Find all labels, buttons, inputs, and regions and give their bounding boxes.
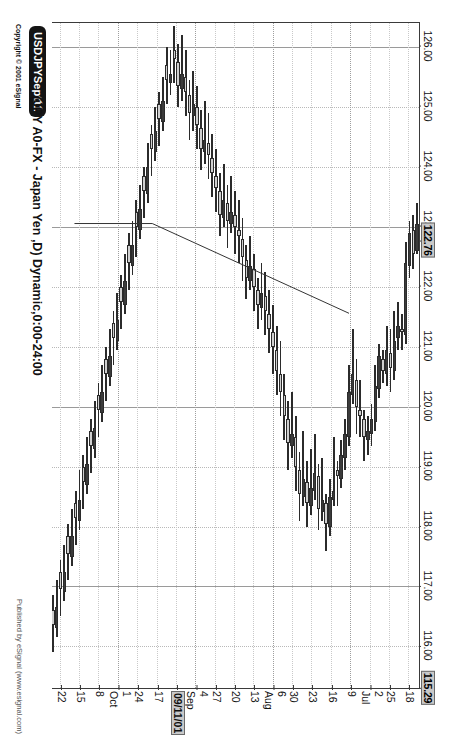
date-tick: 6Aug <box>262 691 287 710</box>
candle-body-up <box>298 470 301 494</box>
date-tick-label: 30 <box>288 691 300 703</box>
candlestick <box>203 23 206 688</box>
candlestick <box>85 23 88 688</box>
date-tick-label: 25 <box>385 691 397 703</box>
date-tick-stub <box>371 685 372 690</box>
rotated-chart-container: 126.00125.00124.00123.00122.00121.00120.… <box>0 0 464 736</box>
candlestick <box>321 23 324 688</box>
candle-body-up <box>52 610 55 625</box>
candlestick <box>377 23 380 688</box>
date-tick-stub <box>293 685 294 690</box>
candlestick <box>63 23 66 688</box>
candle-body-up <box>241 239 244 257</box>
candle-body-down <box>203 140 206 152</box>
date-tick-label: 18 <box>404 691 416 703</box>
candle-body-down <box>116 320 119 341</box>
candle-body-down <box>85 464 88 485</box>
candle-body-down <box>408 233 411 266</box>
date-tick: 22 <box>56 691 68 703</box>
candlestick <box>336 23 339 688</box>
candlestick <box>70 23 73 688</box>
candle-body-up <box>59 572 62 590</box>
date-tick-label: 20 <box>230 691 242 703</box>
candle-wick <box>181 35 183 101</box>
candle-wick <box>98 383 100 437</box>
candle-body-down <box>70 536 73 557</box>
price-tick: 117.00 <box>422 570 434 600</box>
date-tick-label: 27 <box>211 691 223 703</box>
candle-body-down <box>396 326 399 338</box>
date-tick: 4Sep <box>185 691 210 710</box>
candle-body-down <box>377 356 380 389</box>
candlestick <box>199 23 202 688</box>
candle-body-up <box>245 260 248 278</box>
candle-wick <box>113 311 115 365</box>
date-tick-label: 17 <box>153 691 165 703</box>
candle-wick <box>291 392 293 458</box>
candle-body-up <box>173 50 176 59</box>
candle-wick <box>170 50 172 95</box>
date-tick-stub <box>158 685 159 690</box>
price-tick: 124.00 <box>422 150 434 181</box>
candlestick <box>131 23 134 688</box>
candlestick <box>180 23 183 688</box>
candle-body-up <box>355 380 358 407</box>
candlestick <box>192 23 195 688</box>
candle-body-up <box>142 176 145 191</box>
price-tick-label: 121.00 <box>422 330 434 361</box>
price-tick-label: 119.00 <box>422 451 434 481</box>
candle-body-down <box>108 356 111 377</box>
candlestick <box>366 23 369 688</box>
date-tick-stub <box>99 685 100 690</box>
date-tick-label: 4 <box>198 691 210 697</box>
candle-body-down <box>415 224 418 251</box>
candlestick <box>286 23 289 688</box>
candle-wick <box>230 176 232 233</box>
candlestick <box>229 23 232 688</box>
candlestick <box>248 23 251 688</box>
candlestick <box>146 23 149 688</box>
candlestick <box>267 23 270 688</box>
candlestick <box>154 23 157 688</box>
candle-body-down <box>146 167 149 194</box>
candlestick <box>108 23 111 688</box>
date-tick-label: 22 <box>56 691 68 703</box>
date-tick: 17 <box>153 691 165 703</box>
price-tick: 115.29 <box>422 671 434 705</box>
candle-body-up <box>336 470 339 476</box>
candlestick <box>260 23 263 688</box>
date-tick-label: 24 <box>133 691 145 703</box>
candle-body-up <box>305 482 308 503</box>
candle-body-down <box>332 491 335 500</box>
candle-wick <box>401 314 403 350</box>
candlestick <box>188 23 191 688</box>
candle-wick <box>158 92 160 146</box>
candlestick <box>241 23 244 688</box>
price-axis[interactable]: 126.00125.00124.00123.00122.00121.00120.… <box>419 22 464 688</box>
price-tick-highlight: 122.76 <box>421 223 435 258</box>
date-tick: 9 <box>346 691 358 697</box>
price-tick-label: 124.00 <box>422 150 434 181</box>
candlestick <box>283 23 286 688</box>
date-tick-month: Jul <box>359 691 371 704</box>
candle-body-up <box>89 431 92 446</box>
candle-body-up <box>176 62 179 86</box>
candlestick <box>252 23 255 688</box>
candle-body-up <box>233 215 236 227</box>
date-axis[interactable]: 18252Jul91623306Aug1320274Sep09/11/01172… <box>52 688 420 736</box>
candle-body-down <box>404 263 407 335</box>
candlestick <box>324 23 327 688</box>
date-tick: 2Jul <box>359 691 384 704</box>
candlestick <box>332 23 335 688</box>
date-tick: 23 <box>307 691 319 703</box>
candlestick <box>138 23 141 688</box>
plot-area[interactable] <box>52 22 420 688</box>
candle-body-down <box>374 386 377 422</box>
chart-page: 126.00125.00124.00123.00122.00121.00120.… <box>0 0 464 736</box>
candlestick <box>309 23 312 688</box>
candle-body-up <box>324 503 327 524</box>
candlestick <box>294 23 297 688</box>
candle-body-down <box>328 497 331 527</box>
candlestick <box>78 23 81 688</box>
date-tick: 30 <box>288 691 300 703</box>
